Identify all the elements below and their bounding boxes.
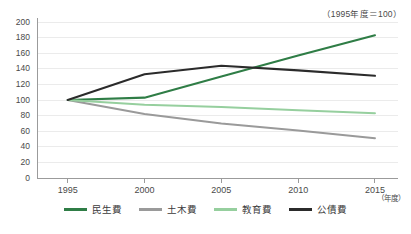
legend-item-1[interactable]: 土木費: [139, 205, 197, 215]
y-tick-label: 140: [4, 64, 30, 73]
legend-label: 民生費: [92, 205, 122, 215]
x-axis-unit-label: （年度）: [377, 192, 405, 203]
legend-swatch-icon: [64, 208, 87, 211]
legend-item-2[interactable]: 教育費: [214, 205, 272, 215]
legend-label: 土木費: [167, 205, 197, 215]
x-tick-label: 2000: [125, 186, 165, 195]
x-tick-label: 2005: [201, 186, 241, 195]
y-tick-label: 20: [4, 158, 30, 167]
y-tick-label: 100: [4, 96, 30, 105]
y-tick-label: 40: [4, 142, 30, 151]
series-line-1: [68, 100, 375, 138]
y-tick-label: 60: [4, 127, 30, 136]
y-tick-label: 120: [4, 80, 30, 89]
y-tick-label: 200: [4, 18, 30, 27]
x-tick-label: 2010: [278, 186, 318, 195]
line-chart: （1995年度＝100） 020406080100120140160180200…: [0, 0, 411, 234]
chart-legend: 民生費土木費教育費公債費: [0, 205, 411, 215]
y-tick-label: 180: [4, 33, 30, 42]
legend-label: 教育費: [242, 205, 272, 215]
series-line-0: [68, 35, 375, 100]
y-tick-label: 80: [4, 111, 30, 120]
series-line-2: [68, 100, 375, 113]
legend-swatch-icon: [139, 208, 162, 211]
x-tick-label: 1995: [48, 186, 88, 195]
y-tick-label: 0: [4, 174, 30, 183]
legend-swatch-icon: [214, 208, 237, 211]
plot-area: [0, 0, 411, 234]
legend-swatch-icon: [289, 208, 312, 211]
legend-item-3[interactable]: 公債費: [289, 205, 347, 215]
series-line-3: [68, 66, 375, 100]
legend-item-0[interactable]: 民生費: [64, 205, 122, 215]
legend-label: 公債費: [317, 205, 347, 215]
y-tick-label: 160: [4, 49, 30, 58]
